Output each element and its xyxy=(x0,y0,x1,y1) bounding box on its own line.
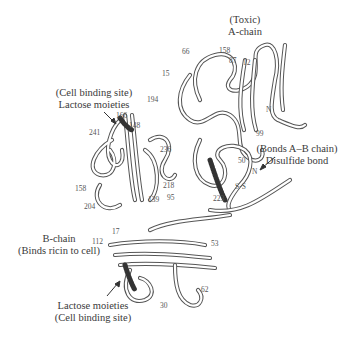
cell-binding-top-line2: Lactose moieties xyxy=(48,99,140,111)
residue-15: 15 xyxy=(162,70,170,78)
residue-166: 166 xyxy=(116,112,127,120)
residue-50: 50 xyxy=(238,157,246,165)
residue-112: 112 xyxy=(92,238,103,246)
cell-binding-bottom-line2: (Cell binding site) xyxy=(48,312,138,324)
disulfide-label-line2: Disulfide bond xyxy=(246,155,348,167)
residue-99: 99 xyxy=(256,130,264,138)
residue-87: 87 xyxy=(229,57,237,65)
residue-204: 204 xyxy=(84,203,95,211)
residue-218: 218 xyxy=(163,182,174,190)
cell-binding-top-line1: (Cell binding site) xyxy=(48,87,140,99)
residue-12: 12 xyxy=(243,59,251,67)
residue-17: 17 xyxy=(112,228,120,236)
residue-223: 223 xyxy=(213,195,224,203)
residue-148: 148 xyxy=(129,122,140,130)
b-chain-label-line1: B-chain xyxy=(14,233,104,245)
a-chain-n-terminus: N xyxy=(266,106,271,114)
residue-62: 62 xyxy=(201,286,209,294)
b-chain-n-terminus: N xyxy=(252,168,257,176)
a-chain-label-line2: A-chain xyxy=(210,26,280,38)
cell-binding-site-top-label: (Cell binding site) Lactose moieties xyxy=(48,87,140,111)
residue-30: 30 xyxy=(160,302,168,310)
residue-194: 194 xyxy=(147,96,158,104)
protein-ribbon-drawing xyxy=(0,0,348,340)
a-chain-label: (Toxic) A-chain xyxy=(210,14,280,38)
b-chain-label: B-chain (Binds ricin to cell) xyxy=(14,233,104,257)
b-chain-lower-ribbon xyxy=(110,215,230,306)
residue-53: 53 xyxy=(211,240,219,248)
disulfide-bond-label: (Bonds A–B chain) Disulfide bond xyxy=(246,143,348,167)
residue-66: 66 xyxy=(182,48,190,56)
residue-139: 139 xyxy=(148,196,159,204)
residue-95: 95 xyxy=(167,194,175,202)
b-chain-label-line2: (Binds ricin to cell) xyxy=(14,245,104,257)
disulfide-label-line1: (Bonds A–B chain) xyxy=(246,143,348,155)
residue-158-b: 158 xyxy=(75,185,86,193)
disulfide-ss-marker: S-S xyxy=(235,183,246,191)
cell-binding-site-bottom-label: Lactose moieties (Cell binding site) xyxy=(48,300,138,324)
residue-241: 241 xyxy=(89,129,100,137)
a-chain-label-line1: (Toxic) xyxy=(210,14,280,26)
residue-236: 236 xyxy=(160,146,171,154)
ricin-ribbon-diagram: (Toxic) A-chain (Bonds A–B chain) Disulf… xyxy=(0,0,348,340)
cell-binding-bottom-line1: Lactose moieties xyxy=(48,300,138,312)
residue-158-a: 158 xyxy=(219,47,230,55)
